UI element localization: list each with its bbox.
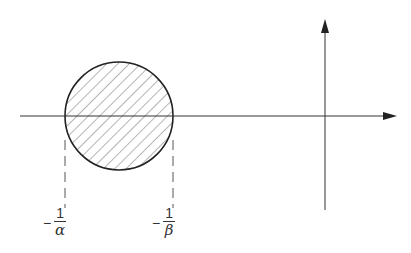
minus-sign: − xyxy=(152,215,160,231)
numerator: 1 xyxy=(56,206,64,221)
fraction: 1 β xyxy=(163,206,175,239)
denominator: β xyxy=(165,222,174,239)
minus-sign: − xyxy=(43,215,51,231)
fraction: 1 α xyxy=(54,206,66,239)
imaginary-axis xyxy=(321,19,329,210)
denominator: α xyxy=(55,222,65,239)
numerator: 1 xyxy=(165,206,173,221)
label-neg-inv-beta: − 1 β xyxy=(152,206,175,239)
label-neg-inv-alpha: − 1 α xyxy=(43,206,66,239)
